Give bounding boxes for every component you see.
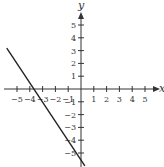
x-tick-label: −2 xyxy=(50,95,62,104)
y-tick-label: 4 xyxy=(71,34,76,43)
y-tick-label: 1 xyxy=(71,72,76,81)
y-tick-label: −3 xyxy=(64,123,76,132)
y-tick-label: −1 xyxy=(64,98,76,107)
x-tick-label: 4 xyxy=(130,95,135,104)
y-axis-label: y xyxy=(77,0,85,12)
y-tick-label: 2 xyxy=(71,59,76,68)
x-tick-label: 3 xyxy=(117,95,122,104)
x-axis-label: x xyxy=(159,82,164,95)
coordinate-plane: xy−5−4−3−2−112345−5−4−3−2−112345 xyxy=(0,0,164,167)
x-tick-label: −4 xyxy=(24,95,36,104)
x-tick-label: 2 xyxy=(104,95,109,104)
y-tick-label: −2 xyxy=(64,111,76,120)
y-axis-arrow-icon xyxy=(78,12,84,19)
x-tick-label: 5 xyxy=(142,95,147,104)
x-tick-label: 1 xyxy=(91,95,96,104)
x-tick-label: −5 xyxy=(11,95,23,104)
y-tick-label: 3 xyxy=(71,47,76,56)
y-tick-label: 5 xyxy=(71,21,76,30)
